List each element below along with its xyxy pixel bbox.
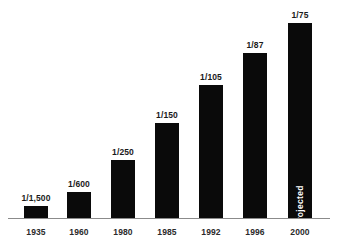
bar-value-label-1980: 1/250 — [112, 147, 134, 157]
plot-area: 1/1,500 1/600 1/250 1/150 1/105 1/87 — [0, 0, 339, 247]
x-tick-1996: 1996 — [235, 227, 275, 237]
bar-1996 — [243, 53, 267, 218]
bar-1980 — [111, 160, 135, 218]
x-tick-1980: 1980 — [103, 227, 143, 237]
projected-annotation: Projected — [295, 185, 305, 226]
bar-value-label-1985: 1/150 — [156, 110, 178, 120]
x-tick-1992: 1992 — [191, 227, 231, 237]
bar-1992 — [199, 85, 223, 218]
x-tick-1960: 1960 — [59, 227, 99, 237]
bar-value-label-1992: 1/105 — [200, 72, 222, 82]
bar-chart: 1/1,500 1/600 1/250 1/150 1/105 1/87 — [0, 0, 339, 247]
x-tick-1935: 1935 — [16, 227, 56, 237]
x-tick-2000: 2000 — [280, 227, 320, 237]
bar-value-label-1935: 1/1,500 — [21, 193, 50, 203]
x-axis-line — [8, 218, 330, 219]
x-tick-1985: 1985 — [147, 227, 187, 237]
bar-1960 — [67, 192, 91, 218]
bar-value-label-2000: 1/75 — [292, 10, 309, 20]
bar-value-label-1996: 1/87 — [247, 40, 264, 50]
bar-1985 — [155, 123, 179, 218]
bar-value-label-1960: 1/600 — [68, 179, 90, 189]
bar-1935 — [24, 206, 48, 218]
